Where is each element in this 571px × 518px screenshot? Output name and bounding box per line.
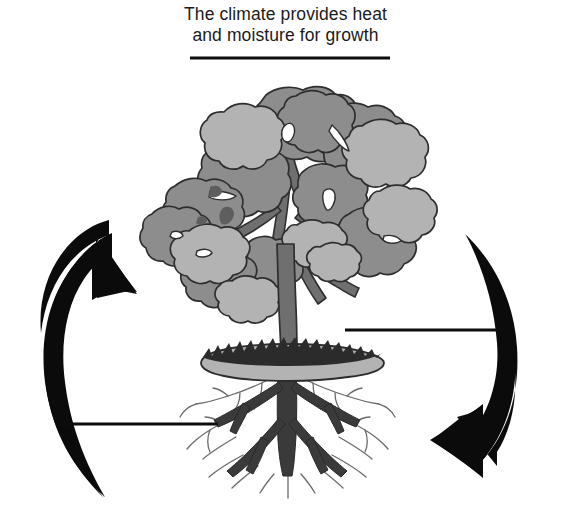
- diagram-canvas: The climate provides heat and moisture f…: [0, 0, 571, 518]
- blank-answer-lines: [0, 0, 571, 518]
